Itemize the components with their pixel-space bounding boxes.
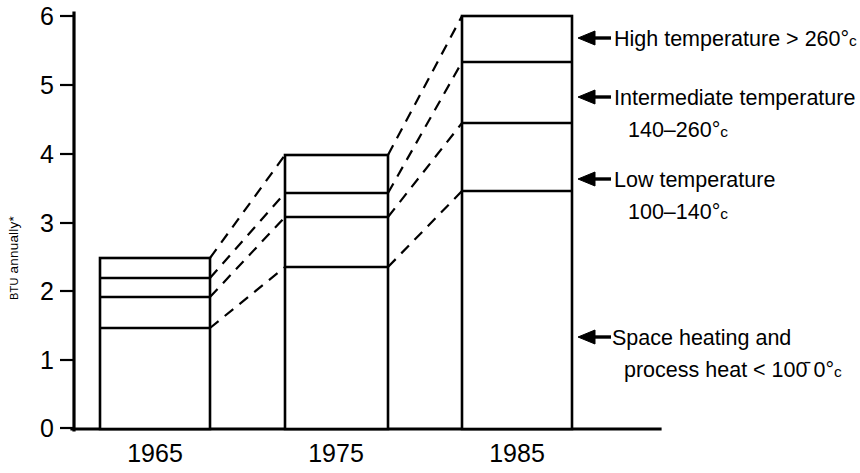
annotation-low-temperature-range-text: 100–140°c (628, 200, 728, 224)
annotation-low-temperature: Low temperature 100–140°c (578, 168, 775, 224)
annotation-low-temperature-label: Low temperature (614, 168, 775, 192)
annotation-high-temperature-unit: c (849, 32, 857, 49)
annotation-high-temperature-text: High temperature > 260°c (614, 27, 857, 51)
annotation-space-heating-unit: c (834, 363, 842, 380)
annotation-high-temperature-range: > 260° (786, 27, 849, 51)
y-tick-label-6: 6 (40, 2, 54, 30)
y-axis-title-smallcaps: BTU (8, 277, 20, 300)
annotation-high-temperature: High temperature > 260°c (578, 27, 857, 51)
y-tick-label-3: 3 (40, 209, 54, 237)
y-axis-title-rest: annually* (6, 216, 21, 278)
bar-1975[interactable] (285, 155, 388, 429)
left-arrow-icon-low-temperature (578, 172, 611, 186)
annotation-space-heating-label: Space heating and (612, 326, 791, 350)
left-arrow-icon-space-heating (578, 330, 611, 344)
connector-intermediate-temp-1975-1985 (388, 62, 462, 193)
annotation-intermediate-temperature: Intermediate temperature 140–260°c (578, 86, 855, 142)
y-tick-label-5: 5 (40, 71, 54, 99)
left-arrow-icon-intermediate-temperature (578, 90, 611, 104)
y-tick-label-0: 0 (40, 414, 54, 442)
bar-1965[interactable] (100, 258, 210, 429)
connector-high-temp-1975-1985 (388, 16, 462, 155)
connector-space-heating-1975-1985 (388, 191, 462, 267)
x-tick-label-1985: 1985 (489, 439, 545, 467)
annotation-space-heating-line2-label: process heat (624, 358, 753, 382)
annotation-intermediate-temperature-unit: c (720, 123, 728, 140)
annotation-low-temperature-unit: c (720, 205, 728, 222)
connector-low-temp-1975-1985 (388, 123, 462, 217)
annotation-intermediate-temperature-range-text: 140–260°c (628, 118, 728, 142)
y-tick-label-1: 1 (40, 346, 54, 374)
annotation-space-heating: Space heating and process heat < 100̄ 0°… (578, 326, 842, 382)
annotation-space-heating-line2: process heat < 100̄ 0°c (624, 358, 842, 382)
y-tick-label-4: 4 (40, 140, 54, 168)
bar-1965-body[interactable] (100, 258, 210, 429)
x-tick-label-1965: 1965 (127, 439, 183, 467)
bar-1985[interactable] (462, 16, 572, 429)
x-tick-label-1975: 1975 (308, 439, 364, 467)
bar-1975-body[interactable] (285, 155, 388, 429)
y-axis: 6 5 4 3 2 1 0 BTU annually* (6, 2, 74, 442)
annotation-low-temperature-range: 100–140° (628, 200, 720, 224)
bar-1985-body[interactable] (462, 16, 572, 429)
annotation-intermediate-temperature-label: Intermediate temperature (614, 86, 855, 110)
y-axis-title: BTU annually* (6, 216, 21, 300)
connector-low-temp-1965-1975 (210, 217, 285, 297)
connector-space-heating-1965-1975 (210, 267, 285, 328)
stacked-bar-chart: 6 5 4 3 2 1 0 BTU annually* 1965 1975 19… (0, 0, 860, 473)
y-tick-label-2: 2 (40, 277, 54, 305)
annotation-intermediate-temperature-range: 140–260° (628, 118, 720, 142)
chart-container: 6 5 4 3 2 1 0 BTU annually* 1965 1975 19… (0, 0, 860, 473)
annotation-space-heating-range: < 100̄ 0° (753, 358, 834, 382)
annotation-high-temperature-label: High temperature (614, 27, 780, 51)
y-axis-title-text: BTU annually* (6, 216, 21, 300)
left-arrow-icon-high-temperature (578, 31, 611, 45)
x-axis: 1965 1975 1985 (72, 429, 660, 467)
